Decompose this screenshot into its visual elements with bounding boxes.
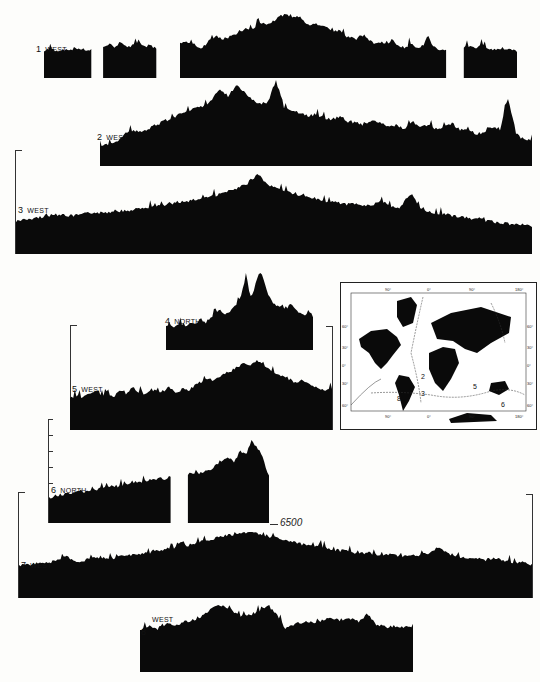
map-top-tick-3: 180° [515, 287, 524, 292]
map-left-tick-0: 60° [342, 324, 348, 329]
map-track-2: 2 [421, 373, 425, 380]
map-right-tick-0: 60° [527, 324, 533, 329]
profile-3-label: 3WEST [18, 205, 49, 215]
map-track-8: 8 [397, 395, 401, 402]
map-left-tick-2: 0° [342, 363, 346, 368]
map-right-tick-3: 30° [527, 381, 533, 386]
profile-1 [44, 14, 517, 78]
map-bottom-tick-0: 90° [385, 414, 391, 419]
profile-8-direction: WEST [152, 616, 173, 623]
map-track-6: 6 [501, 401, 505, 408]
profile-4-label: 4NORTH [165, 316, 201, 326]
map-left-tick-3: 30° [342, 381, 348, 386]
depth-reference-line [270, 524, 278, 525]
profile-8 [140, 605, 413, 672]
profile-7-label: 7WEST [21, 560, 52, 570]
map-top-tick-1: 0° [427, 287, 431, 292]
profile-6-label: 6NORTH [51, 485, 87, 495]
depth-reference-label: 6500 [280, 517, 302, 528]
map-track-5: 5 [473, 383, 477, 390]
profile-2 [100, 80, 532, 166]
profile-8-number: 8 [141, 627, 146, 637]
map-right-tick-1: 30° [527, 345, 533, 350]
map-left-tick-1: 30° [342, 345, 348, 350]
profile-1-label: 1WEST [36, 44, 67, 54]
profile-5-label: 5WEST [72, 384, 103, 394]
profile-7 [19, 532, 532, 598]
map-top-tick-0: 90° [385, 287, 391, 292]
profile-4 [166, 270, 313, 350]
map-top-tick-2: 90° [469, 287, 475, 292]
map-right-tick-2: 0° [527, 363, 531, 368]
world-map-graphic: 90° 0° 90° 180° 90° 0° 90° 180° 60° 30° … [341, 283, 535, 428]
map-bottom-tick-1: 0° [427, 414, 431, 419]
map-track-3: 3 [421, 390, 425, 397]
map-bottom-tick-3: 180° [515, 414, 524, 419]
profile-6 [49, 440, 269, 523]
map-bottom-tick-2: 90° [469, 414, 475, 419]
location-map: 90° 0° 90° 180° 90° 0° 90° 180° 60° 30° … [340, 282, 537, 430]
profile-5 [70, 360, 332, 430]
map-left-tick-4: 60° [342, 403, 348, 408]
map-right-tick-4: 60° [527, 403, 533, 408]
profile-3 [16, 174, 532, 254]
profile-2-label: 2WEST [97, 132, 128, 142]
